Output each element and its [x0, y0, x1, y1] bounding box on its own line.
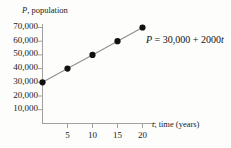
y-tick-label-70000: 70,000 [0, 22, 38, 31]
x-tick-label-5: 5 [58, 131, 78, 140]
axis-lines [43, 24, 157, 124]
y-tick-label-50000: 50,000 [0, 49, 38, 58]
chart-figure: P, population t, time (years) 70,000 60,… [0, 0, 231, 148]
x-axis-title: t, time (years) [152, 120, 199, 129]
y-tick-label-20000: 20,000 [0, 91, 38, 100]
data-point-1 [64, 66, 70, 72]
y-axis-title-text: , population [27, 5, 68, 15]
equation-rhs-variable: t [221, 34, 224, 45]
x-axis-ticks [68, 124, 143, 129]
x-tick-label-20: 20 [133, 131, 153, 140]
equation-body: = 30,000 + 2000 [152, 34, 221, 45]
data-point-markers [39, 24, 145, 85]
x-tick-label-15: 15 [108, 131, 128, 140]
x-axis-title-text: , time (years) [154, 119, 199, 129]
y-tick-label-30000: 30,000 [0, 77, 38, 86]
x-tick-label-10: 10 [83, 131, 103, 140]
data-point-0 [39, 79, 45, 85]
data-point-4 [139, 24, 145, 30]
y-axis-title: P, population [22, 6, 68, 15]
data-point-2 [89, 52, 95, 58]
y-tick-label-10000: 10,000 [0, 104, 38, 113]
y-tick-label-40000: 40,000 [0, 63, 38, 72]
data-point-3 [114, 38, 120, 44]
y-tick-label-60000: 60,000 [0, 36, 38, 45]
y-axis-ticks [38, 28, 43, 110]
equation-annotation: P = 30,000 + 2000t [146, 35, 224, 45]
